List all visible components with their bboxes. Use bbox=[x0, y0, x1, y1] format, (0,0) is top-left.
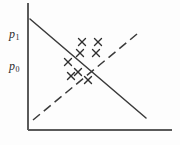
curves-group bbox=[30, 19, 146, 120]
plot-canvas bbox=[0, 0, 180, 145]
data-point-x-marker bbox=[75, 69, 82, 76]
data-point-x-marker bbox=[77, 50, 84, 57]
data-point-markers bbox=[65, 39, 102, 84]
y-axis-label-p1: p1 bbox=[9, 27, 20, 42]
data-point-x-marker bbox=[93, 50, 100, 57]
figure-container: p1 p0 bbox=[0, 0, 180, 145]
y-axis-label-p0-subscript: 0 bbox=[15, 65, 20, 74]
demand-curve-solid bbox=[30, 19, 146, 118]
y-axis-label-p0: p0 bbox=[9, 59, 20, 74]
y-axis-label-p1-subscript: 1 bbox=[15, 33, 20, 42]
data-point-x-marker bbox=[79, 39, 86, 46]
data-point-x-marker bbox=[95, 39, 102, 46]
data-point-x-marker bbox=[68, 73, 75, 80]
axes-group bbox=[28, 3, 172, 130]
data-point-x-marker bbox=[85, 77, 92, 84]
data-point-x-marker bbox=[65, 59, 72, 66]
